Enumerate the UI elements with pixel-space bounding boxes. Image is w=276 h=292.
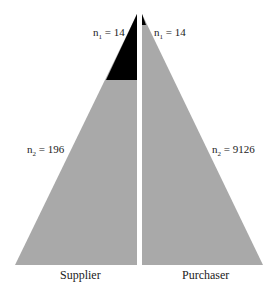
pyramid-diagram: n1 = 14 n1 = 14 n2 = 196 n2 = 9126 Suppl…: [0, 0, 276, 292]
supplier-label: Supplier: [60, 268, 101, 283]
supplier-n1-region: [106, 14, 137, 80]
purchaser-n2-label: n2 = 9126: [212, 143, 255, 158]
supplier-n1-label: n1 = 14: [93, 26, 125, 41]
purchaser-triangle: [142, 14, 263, 265]
supplier-triangle: [15, 14, 137, 265]
purchaser-label: Purchaser: [182, 268, 229, 283]
purchaser-n1-label: n1 = 14: [154, 26, 186, 41]
supplier-n2-label: n2 = 196: [27, 143, 64, 158]
